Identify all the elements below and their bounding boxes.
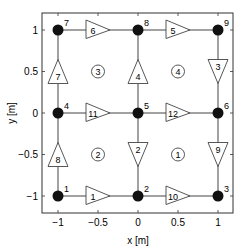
node-dot-icon	[213, 191, 224, 202]
edge-label: 12	[168, 109, 178, 119]
node-5: 5	[133, 101, 150, 119]
node-label: 1	[64, 184, 69, 194]
node-dot-icon	[133, 191, 144, 202]
node-4: 4	[53, 101, 70, 119]
edge-label: 7	[55, 72, 60, 82]
node-dot-icon	[213, 25, 224, 36]
node-6: 6	[213, 101, 230, 119]
x-axis-label: x [m]	[127, 235, 149, 246]
region-2: 2	[92, 148, 105, 161]
edge-1: 1	[58, 186, 138, 205]
x-tick-label: 0	[135, 217, 141, 228]
x-tick-label: −0.5	[88, 217, 108, 228]
y-tick-label: 0	[32, 108, 38, 119]
node-9: 9	[213, 18, 230, 36]
edge-label: 11	[88, 109, 97, 119]
edge-label: 4	[135, 72, 140, 82]
node-1: 1	[53, 184, 70, 202]
node-8: 8	[133, 18, 150, 36]
y-tick-label: 0.5	[24, 66, 38, 77]
node-dot-icon	[133, 25, 144, 36]
region-1: 1	[172, 148, 185, 161]
node-dot-icon	[133, 108, 144, 119]
edge-12: 12	[138, 103, 218, 122]
region-label: 4	[175, 67, 180, 77]
node-dot-icon	[53, 108, 64, 119]
edge-label: 2	[135, 145, 140, 155]
node-label: 9	[224, 18, 229, 28]
edge-label: 5	[170, 26, 175, 36]
node-label: 2	[144, 184, 149, 194]
edge-label: 9	[215, 145, 220, 155]
edge-label: 10	[168, 192, 178, 202]
node-label: 8	[144, 18, 149, 28]
node-label: 7	[64, 18, 69, 28]
region-label: 1	[175, 150, 180, 160]
edge-5: 5	[138, 20, 218, 39]
edge-6: 6	[58, 20, 138, 39]
region-3: 3	[92, 65, 105, 78]
node-dot-icon	[53, 191, 64, 202]
region-4: 4	[172, 65, 185, 78]
x-tick-label: −1	[52, 217, 64, 228]
node-3: 3	[213, 184, 230, 202]
edge-label: 8	[55, 155, 60, 165]
edge-label: 1	[90, 192, 95, 202]
node-dot-icon	[213, 108, 224, 119]
node-label: 3	[224, 184, 229, 194]
edge-label: 6	[90, 26, 95, 36]
x-tick-label: 1	[215, 217, 221, 228]
y-tick-label: −0.5	[18, 149, 38, 160]
region-label: 3	[95, 67, 100, 77]
y-tick-label: −1	[27, 191, 39, 202]
node-label: 6	[224, 101, 229, 111]
y-tick-label: 1	[32, 25, 38, 36]
node-label: 4	[64, 101, 69, 111]
x-tick-label: 0.5	[171, 217, 185, 228]
graph-plot: −1−0.500.51−1−0.500.51 110111265872493 1…	[0, 0, 248, 251]
nodes: 123456789	[53, 18, 230, 202]
node-dot-icon	[53, 25, 64, 36]
node-2: 2	[133, 184, 150, 202]
edge-10: 10	[138, 186, 218, 205]
y-axis-label: y [m]	[6, 102, 17, 124]
node-label: 5	[144, 101, 149, 111]
node-7: 7	[53, 18, 70, 36]
edge-11: 11	[58, 103, 138, 122]
edge-label: 3	[215, 62, 220, 72]
region-label: 2	[95, 150, 100, 160]
